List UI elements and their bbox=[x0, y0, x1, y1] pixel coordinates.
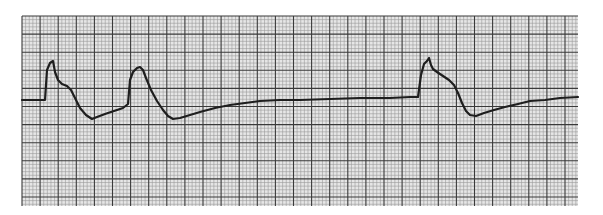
ecg-strip bbox=[0, 0, 603, 215]
